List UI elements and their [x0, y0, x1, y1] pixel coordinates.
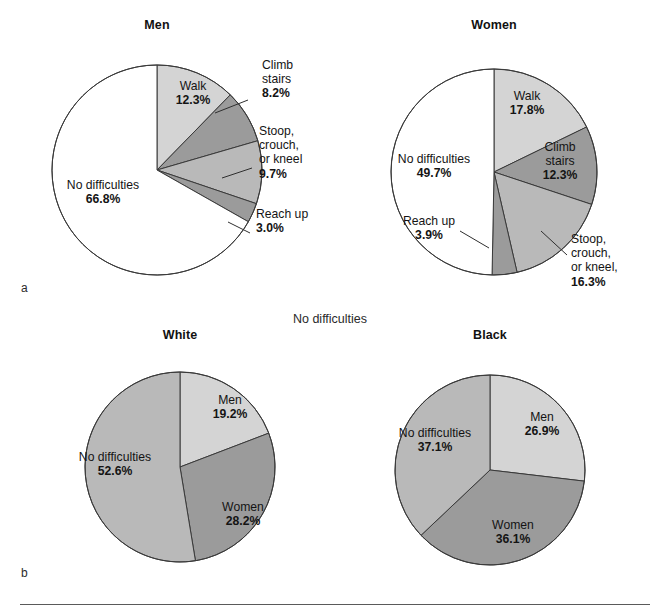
- label-black-women: Women 36.1%: [492, 518, 534, 546]
- figure-pie-chart-panel: a b No difficulties Men Women White Blac…: [0, 0, 658, 614]
- label-black-no-difficulties-name: No difficulties: [399, 426, 471, 440]
- label-men-climb-stairs-line1: Climb: [262, 58, 293, 72]
- pie-men: [52, 65, 262, 275]
- label-men-reach-up: Reach up 3.0%: [256, 207, 308, 235]
- label-women-no-difficulties: No difficulties 49.7%: [398, 152, 470, 180]
- label-black-men-name: Men: [525, 410, 560, 424]
- label-women-walk-name: Walk: [510, 89, 545, 103]
- label-men-stoop-crouch-kneel: Stoop, crouch, or kneel 9.7%: [259, 124, 302, 181]
- label-women-climb-stairs-line2: stairs: [543, 154, 578, 168]
- label-white-no-difficulties-pct: 52.6%: [79, 464, 151, 478]
- label-white-men: Men 19.2%: [213, 393, 248, 421]
- label-women-stoop-line3: or kneel,: [571, 260, 618, 274]
- panel-letter-b: b: [21, 567, 28, 579]
- label-women-climb-stairs: Climb stairs 12.3%: [543, 140, 578, 183]
- label-men-stoop-line2: crouch,: [259, 138, 302, 152]
- label-men-reach-up-name: Reach up: [256, 207, 308, 221]
- figure-bottom-rule: [20, 604, 650, 605]
- label-men-walk: Walk 12.3%: [176, 79, 211, 107]
- label-women-walk-pct: 17.8%: [510, 103, 545, 117]
- label-women-walk: Walk 17.8%: [510, 89, 545, 117]
- label-men-stoop-line3: or kneel: [259, 152, 302, 166]
- label-white-women-pct: 28.2%: [222, 514, 264, 528]
- chart-title-men: Men: [144, 18, 169, 32]
- label-white-men-pct: 19.2%: [213, 407, 248, 421]
- label-men-walk-pct: 12.3%: [176, 93, 211, 107]
- label-black-men: Men 26.9%: [525, 410, 560, 438]
- label-women-reach-up-name: Reach up: [403, 214, 455, 228]
- chart-title-black: Black: [473, 328, 507, 342]
- label-black-no-difficulties: No difficulties 37.1%: [399, 426, 471, 454]
- label-women-reach-up: Reach up 3.9%: [403, 214, 455, 242]
- label-white-women-name: Women: [222, 500, 264, 514]
- label-women-climb-stairs-pct: 12.3%: [543, 168, 578, 182]
- label-women-no-difficulties-name: No difficulties: [398, 152, 470, 166]
- label-men-walk-name: Walk: [176, 79, 211, 93]
- panel-letter-a: a: [21, 282, 28, 294]
- center-note-no-difficulties: No difficulties: [293, 312, 367, 326]
- label-women-stoop-crouch-kneel: Stoop, crouch, or kneel, 16.3%: [571, 232, 618, 289]
- label-black-women-name: Women: [492, 518, 534, 532]
- label-men-stoop-line1: Stoop,: [259, 124, 302, 138]
- label-men-no-difficulties-name: No difficulties: [67, 178, 139, 192]
- chart-title-women: Women: [471, 18, 516, 32]
- label-women-reach-up-pct: 3.9%: [403, 228, 455, 242]
- label-men-no-difficulties-pct: 66.8%: [67, 192, 139, 206]
- label-women-stoop-line2: crouch,: [571, 246, 618, 260]
- label-women-stoop-line1: Stoop,: [571, 232, 618, 246]
- label-white-no-difficulties: No difficulties 52.6%: [79, 450, 151, 478]
- chart-title-white: White: [163, 328, 198, 342]
- label-men-climb-stairs-pct: 8.2%: [262, 86, 293, 100]
- label-women-climb-stairs-line1: Climb: [543, 140, 578, 154]
- label-black-women-pct: 36.1%: [492, 532, 534, 546]
- label-women-no-difficulties-pct: 49.7%: [398, 166, 470, 180]
- pie-black: [395, 375, 585, 565]
- label-men-no-difficulties: No difficulties 66.8%: [67, 178, 139, 206]
- pie-charts-canvas: [0, 0, 658, 614]
- label-white-women: Women 28.2%: [222, 500, 264, 528]
- label-black-no-difficulties-pct: 37.1%: [399, 440, 471, 454]
- label-white-no-difficulties-name: No difficulties: [79, 450, 151, 464]
- label-white-men-name: Men: [213, 393, 248, 407]
- label-women-stoop-pct: 16.3%: [571, 275, 618, 289]
- label-men-stoop-pct: 9.7%: [259, 167, 302, 181]
- label-men-reach-up-pct: 3.0%: [256, 221, 308, 235]
- label-black-men-pct: 26.9%: [525, 424, 560, 438]
- label-men-climb-stairs: Climb stairs 8.2%: [262, 58, 293, 101]
- label-men-climb-stairs-line2: stairs: [262, 72, 293, 86]
